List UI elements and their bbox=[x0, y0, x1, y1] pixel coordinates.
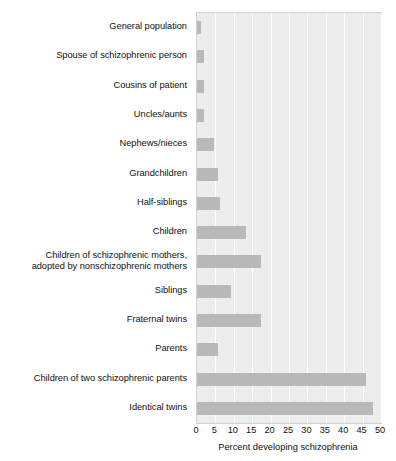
bar bbox=[197, 285, 231, 298]
category-label: Nephews/nieces bbox=[0, 129, 192, 158]
bar-row bbox=[197, 101, 381, 130]
bar-row bbox=[197, 247, 381, 276]
bar bbox=[197, 138, 214, 151]
bar bbox=[197, 343, 218, 356]
category-label: Children of two schizophrenic parents bbox=[0, 363, 192, 392]
category-axis-labels: General population Spouse of schizophren… bbox=[0, 12, 192, 422]
category-label: Uncles/aunts bbox=[0, 100, 192, 129]
bar bbox=[197, 168, 218, 181]
category-label: Parents bbox=[0, 334, 192, 363]
bar-row bbox=[197, 130, 381, 159]
gridline bbox=[381, 13, 382, 423]
category-label: Half-siblings bbox=[0, 188, 192, 217]
x-tick-label: 5 bbox=[212, 425, 217, 435]
bar bbox=[197, 21, 201, 34]
bar bbox=[197, 80, 204, 93]
category-label: Siblings bbox=[0, 276, 192, 305]
bar-row bbox=[197, 13, 381, 42]
category-label: Identical twins bbox=[0, 393, 192, 422]
bar bbox=[197, 402, 373, 415]
x-tick-label: 10 bbox=[228, 425, 238, 435]
bar-row bbox=[197, 306, 381, 335]
bar bbox=[197, 226, 246, 239]
x-tick-label: 45 bbox=[356, 425, 366, 435]
bar-row bbox=[197, 364, 381, 393]
bar bbox=[197, 197, 220, 210]
category-label: Spouse of schizophrenic person bbox=[0, 41, 192, 70]
x-tick-label: 20 bbox=[264, 425, 274, 435]
bar bbox=[197, 255, 261, 268]
bar-row bbox=[197, 218, 381, 247]
category-label: Children of schizophrenic mothers, adopt… bbox=[0, 246, 192, 275]
x-tick-label: 15 bbox=[246, 425, 256, 435]
x-tick-label: 35 bbox=[320, 425, 330, 435]
bar-row bbox=[197, 335, 381, 364]
x-axis-tick-labels: 05101520253035404550 bbox=[196, 425, 380, 437]
bar-row bbox=[197, 277, 381, 306]
x-tick-label: 40 bbox=[338, 425, 348, 435]
x-tick-label: 0 bbox=[193, 425, 198, 435]
x-axis-title: Percent developing schizophrenia bbox=[196, 442, 380, 452]
x-tick-label: 25 bbox=[283, 425, 293, 435]
bar-row bbox=[197, 72, 381, 101]
bar bbox=[197, 373, 366, 386]
bars-layer bbox=[197, 13, 381, 423]
bar bbox=[197, 50, 204, 63]
category-label: General population bbox=[0, 12, 192, 41]
bar-row bbox=[197, 189, 381, 218]
category-label: Fraternal twins bbox=[0, 305, 192, 334]
plot-area bbox=[196, 12, 382, 424]
bar bbox=[197, 314, 261, 327]
bar-chart: General population Spouse of schizophren… bbox=[0, 0, 396, 461]
category-label: Cousins of patient bbox=[0, 71, 192, 100]
x-tick-label: 50 bbox=[375, 425, 385, 435]
x-tick-label: 30 bbox=[301, 425, 311, 435]
bar-row bbox=[197, 159, 381, 188]
bar-row bbox=[197, 394, 381, 423]
category-label: Children bbox=[0, 217, 192, 246]
bar-row bbox=[197, 42, 381, 71]
category-label: Grandchildren bbox=[0, 158, 192, 187]
bar bbox=[197, 109, 204, 122]
